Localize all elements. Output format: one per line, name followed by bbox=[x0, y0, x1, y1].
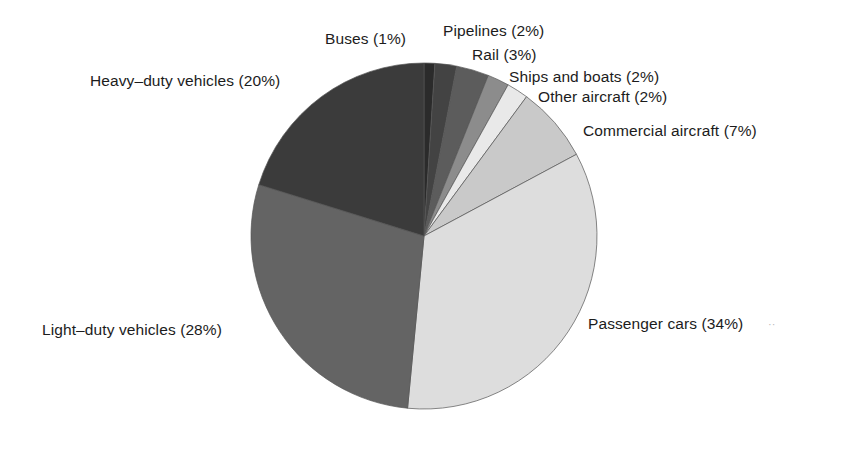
pie-label-ships-and-boats: Ships and boats (2%) bbox=[509, 68, 659, 85]
pie-label-pipelines: Pipelines (2%) bbox=[443, 22, 544, 39]
pie-chart-figure: Heavy–duty vehicles (20%) Buses (1%) Pip… bbox=[0, 0, 842, 449]
pie-label-commercial-aircraft: Commercial aircraft (7%) bbox=[583, 122, 757, 139]
pie-label-passenger-cars: Passenger cars (34%) bbox=[588, 315, 743, 332]
pie-label-heavy-duty-vehicles: Heavy–duty vehicles (20%) bbox=[90, 72, 280, 89]
pie-label-light-duty-vehicles: Light–duty vehicles (28%) bbox=[42, 321, 222, 338]
pie-label-other-aircraft: Other aircraft (2%) bbox=[538, 88, 667, 105]
pie-label-rail: Rail (3%) bbox=[472, 46, 537, 63]
pie-chart-graphic bbox=[0, 0, 842, 449]
scan-artifact-speck: ·· bbox=[768, 318, 775, 330]
pie-label-buses: Buses (1%) bbox=[325, 30, 406, 47]
